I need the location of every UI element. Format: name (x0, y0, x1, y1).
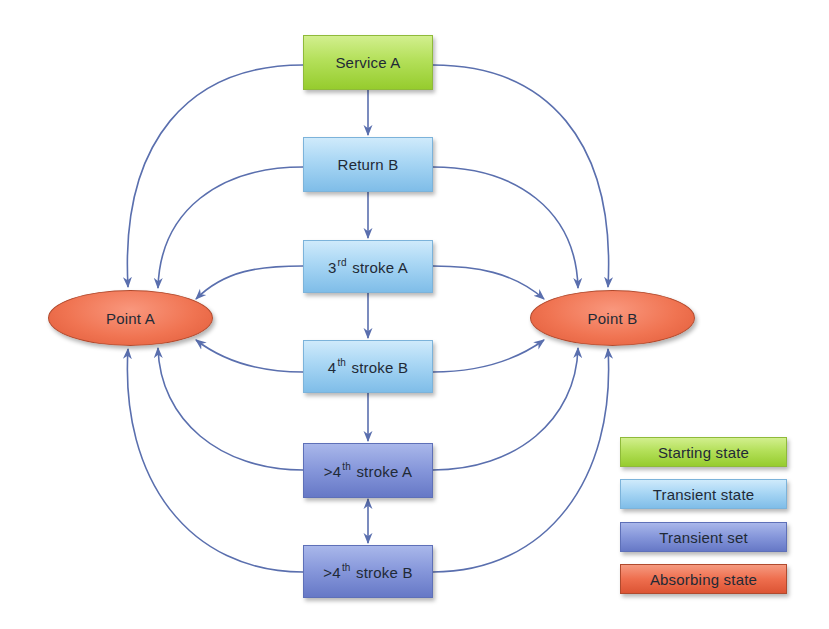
edge-gt4a-to-pointa (158, 348, 303, 470)
node-label: Point B (588, 310, 638, 327)
edge-return-to-pointa (158, 167, 303, 288)
legend-label: Transient set (659, 529, 748, 546)
legend-item-starting: Starting state (620, 437, 787, 467)
edge-4th-to-pointa (196, 340, 303, 372)
node-label: 4th stroke B (328, 358, 408, 376)
edge-return-to-pointb (433, 167, 578, 288)
node-service-a: Service A (303, 35, 433, 90)
edge-service-to-pointb (433, 65, 609, 287)
node-4th-stroke-b: 4th stroke B (303, 340, 433, 393)
node-point-b: Point B (530, 290, 695, 346)
legend-swatch: Starting state (620, 437, 787, 467)
edge-4th-to-pointb (433, 340, 544, 372)
edge-gt4a-to-pointb (433, 348, 578, 470)
node-gt4th-stroke-a: >4th stroke A (303, 443, 433, 498)
node-return-b: Return B (303, 137, 433, 192)
legend-label: Absorbing state (650, 571, 757, 588)
node-label: >4th stroke A (324, 462, 412, 480)
edge-3rd-to-pointb (433, 266, 544, 299)
legend-swatch: Transient state (620, 479, 787, 509)
node-label: Return B (338, 156, 399, 173)
edge-service-to-pointa (127, 65, 303, 287)
edge-gt4b-to-pointa (127, 349, 303, 572)
node-label: 3rd stroke A (328, 258, 408, 276)
legend-item-transient-state: Transient state (620, 479, 787, 509)
node-point-a: Point A (48, 290, 213, 346)
node-3rd-stroke-a: 3rd stroke A (303, 240, 433, 293)
legend-label: Transient state (653, 486, 755, 503)
edge-gt4b-to-pointb (433, 349, 609, 572)
legend-item-transient-set: Transient set (620, 522, 787, 552)
legend-label: Starting state (658, 444, 749, 461)
legend-swatch: Absorbing state (620, 564, 787, 594)
legend-swatch: Transient set (620, 522, 787, 552)
edge-3rd-to-pointa (196, 266, 303, 299)
node-label: Service A (335, 54, 400, 71)
legend-item-absorbing: Absorbing state (620, 564, 787, 594)
node-gt4th-stroke-b: >4th stroke B (303, 545, 433, 598)
node-label: Point A (106, 310, 155, 327)
node-label: >4th stroke B (323, 563, 412, 581)
